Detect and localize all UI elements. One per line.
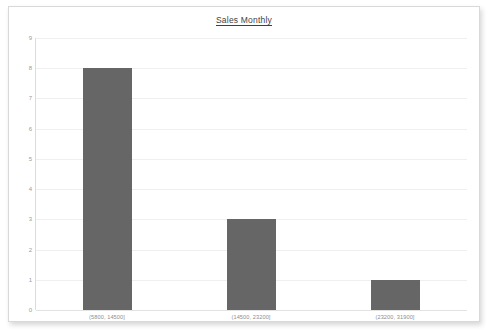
y-tick-label: 6 <box>29 126 32 132</box>
chart-card: Sales Monthly 0123456789 (5800, 14500](1… <box>8 6 480 322</box>
y-tick-label: 5 <box>29 156 32 162</box>
bar <box>227 219 276 310</box>
y-axis <box>35 38 36 310</box>
gridline: 9 <box>36 38 467 39</box>
bar <box>371 280 420 310</box>
y-tick-label: 9 <box>29 35 32 41</box>
bar <box>83 68 132 310</box>
chart-title: Sales Monthly <box>9 15 479 25</box>
gridline: 0 <box>36 310 467 311</box>
y-tick-label: 1 <box>29 277 32 283</box>
x-tick-label: (14500, 23200] <box>231 314 270 320</box>
y-tick-label: 7 <box>29 95 32 101</box>
y-tick-label: 3 <box>29 216 32 222</box>
y-tick-label: 2 <box>29 247 32 253</box>
y-tick-label: 4 <box>29 186 32 192</box>
x-tick-label: (23200, 31900] <box>375 314 414 320</box>
x-tick-label: (5800, 14500] <box>89 314 125 320</box>
y-tick-label: 8 <box>29 65 32 71</box>
plot-area: 0123456789 (5800, 14500](14500, 23200](2… <box>35 29 467 310</box>
y-tick-label: 0 <box>29 307 32 313</box>
